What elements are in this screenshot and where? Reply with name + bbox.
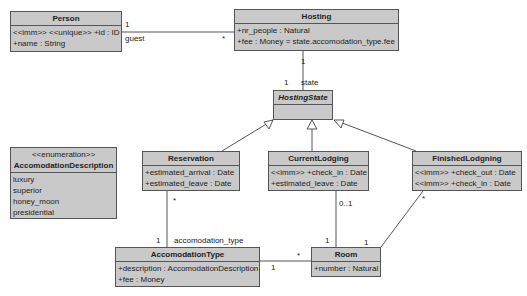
- attribute: <<imm>> <<unique>> +id : ID: [13, 27, 119, 38]
- class-name: AccomodationDescription: [14, 161, 114, 170]
- role-label: state: [301, 78, 318, 87]
- class-name: Reservation: [143, 152, 239, 166]
- multiplicity-label: *: [422, 194, 425, 203]
- attribute: +description : AccomodationDescription: [118, 263, 257, 274]
- attribute: +fee : Money = state.accomodation_type.f…: [237, 36, 396, 47]
- attribute: <<imm>> +check_in : Date: [271, 167, 366, 178]
- generalization-finished-lodgning: [337, 121, 416, 151]
- attribute: +fee : Money: [118, 274, 257, 285]
- generalization-arrowhead-icon: [334, 120, 344, 128]
- multiplicity-label: *: [173, 196, 176, 205]
- stereotype: <<enumeration>>: [13, 149, 114, 160]
- class-name: HostingState: [274, 91, 332, 105]
- class-name: Hosting: [235, 10, 398, 24]
- role-label: accomodation_type: [174, 236, 243, 245]
- multiplicity-label: 0..1: [339, 199, 352, 208]
- enum-literal: presidential: [13, 207, 114, 218]
- multiplicity-label: 1: [271, 263, 275, 272]
- multiplicity-label: 1: [301, 57, 305, 66]
- class-hosting[interactable]: Hosting +nr_people : Natural +fee : Mone…: [234, 9, 399, 51]
- enum-literal: luxury: [13, 174, 114, 185]
- multiplicity-label: 1: [156, 236, 160, 245]
- enum-accomodation-description[interactable]: <<enumeration>> AccomodationDescription …: [10, 147, 117, 219]
- class-room[interactable]: Room +number : Natural: [311, 247, 381, 277]
- attribute: <<imm>> +check_in : Date: [415, 178, 519, 189]
- class-person[interactable]: Person <<imm>> <<unique>> +id : ID +name…: [10, 11, 122, 52]
- role-label: guest: [125, 34, 145, 43]
- multiplicity-label: 1: [125, 20, 129, 29]
- class-reservation[interactable]: Reservation +estimated_arrival : Date +e…: [142, 151, 240, 191]
- generalization-arrowhead-icon: [307, 120, 317, 129]
- multiplicity-label: *: [297, 251, 300, 260]
- class-accomodation-type[interactable]: AccomodationType +description : Accomoda…: [115, 247, 260, 287]
- attribute: +estimated_leave : Date: [271, 178, 366, 189]
- multiplicity-label: 1: [284, 78, 288, 87]
- class-hosting-state[interactable]: HostingState: [273, 90, 333, 120]
- class-current-lodging[interactable]: CurrentLodging <<imm>> +check_in : Date …: [268, 151, 369, 191]
- multiplicity-label: *: [222, 34, 225, 43]
- class-name: FinishedLodgning: [413, 152, 521, 166]
- enum-literal: superior: [13, 185, 114, 196]
- class-name: CurrentLodging: [269, 152, 368, 166]
- attribute: +estimated_leave : Date: [145, 178, 237, 189]
- generalization-arrowhead-icon: [264, 120, 273, 129]
- multiplicity-label: 1: [325, 236, 329, 245]
- multiplicity-label: 1: [364, 238, 368, 247]
- association-finished-room: [381, 191, 423, 247]
- attribute: <<imm>> +check_out : Date: [415, 167, 519, 178]
- attribute: +estimated_arrival : Date: [145, 167, 237, 178]
- class-finished-lodgning[interactable]: FinishedLodgning <<imm>> +check_out : Da…: [412, 151, 522, 191]
- enum-literal: honey_moon: [13, 196, 114, 207]
- uml-class-diagram: Person <<imm>> <<unique>> +id : ID +name…: [0, 0, 527, 296]
- attribute: +name : String: [13, 38, 119, 49]
- class-header: <<enumeration>> AccomodationDescription: [11, 148, 116, 173]
- attribute: +nr_people : Natural: [237, 25, 396, 36]
- attribute: +number : Natural: [314, 263, 378, 274]
- class-name: Room: [312, 248, 380, 262]
- class-name: Person: [11, 12, 121, 26]
- class-name: AccomodationType: [116, 248, 259, 262]
